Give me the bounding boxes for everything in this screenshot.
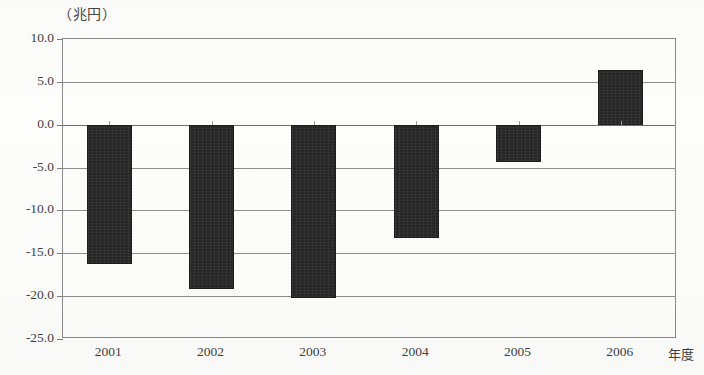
x-axis-tick-label: 2002 [197,344,224,360]
y-axis-tick-label: 10.0 [30,30,54,46]
y-axis-tick [57,210,63,211]
bar [394,125,439,238]
bar-chart: （兆円） 10.05.00.0-5.0-10.0-15.0-20.0-25.0 … [0,0,704,375]
x-axis-tick [621,121,622,125]
x-axis-tick-labels: 年度 200120022003200420052006 [0,340,704,370]
x-axis-tick-label: 2006 [606,344,633,360]
x-axis-tick-label: 2004 [402,344,429,360]
x-axis-tick-label: 2005 [504,344,531,360]
x-axis-tick-label: 2003 [299,344,326,360]
x-axis-tick [109,121,110,125]
y-axis-tick-label: -15.0 [26,244,54,260]
gridline [63,82,675,83]
y-axis-tick-label: -5.0 [33,159,54,175]
y-axis-tick [57,296,63,297]
bar [291,125,336,298]
gridline [63,210,675,211]
x-axis-tick [416,121,417,125]
y-axis-tick [57,82,63,83]
x-axis-tick [314,121,315,125]
x-axis-title: 年度 [668,344,694,363]
y-axis-tick-label: -10.0 [26,201,54,217]
y-axis-tick [57,125,63,126]
gridline [63,253,675,254]
y-axis-tick-label: 5.0 [37,73,54,89]
bar [598,70,643,125]
y-axis-tick [57,39,63,40]
y-axis-tick-label: -20.0 [26,287,54,303]
x-axis-tick [519,121,520,125]
y-axis-tick [57,253,63,254]
zero-line [63,125,675,126]
y-axis-tick-labels: 10.05.00.0-5.0-10.0-15.0-20.0-25.0 [0,38,58,338]
y-axis-unit-label: （兆円） [58,3,116,23]
y-axis-tick [57,168,63,169]
gridline [63,296,675,297]
x-axis-tick-label: 2001 [95,344,122,360]
bar [496,125,541,163]
gridline [63,168,675,169]
y-axis-tick-label: 0.0 [37,116,54,132]
x-axis-tick [212,121,213,125]
plot-area [62,38,676,338]
bar [87,125,132,265]
bar [189,125,234,290]
